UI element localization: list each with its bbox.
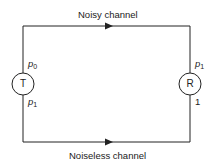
transmitter-bottom-prob: p1 bbox=[28, 96, 37, 108]
noiseless-arrow-icon bbox=[105, 139, 113, 146]
noiseless-channel-label: Noiseless channel bbox=[69, 150, 146, 161]
receiver-label: R bbox=[184, 78, 196, 89]
noisy-channel-label: Noisy channel bbox=[78, 9, 138, 20]
transmitter-label: T bbox=[17, 78, 29, 89]
noisy-arrow-icon bbox=[105, 23, 113, 30]
receiver-bottom-value: 1 bbox=[195, 96, 200, 107]
receiver-top-prob: p1 bbox=[195, 58, 204, 70]
channel-diagram bbox=[0, 0, 215, 168]
transmitter-top-prob: p0 bbox=[28, 58, 37, 70]
